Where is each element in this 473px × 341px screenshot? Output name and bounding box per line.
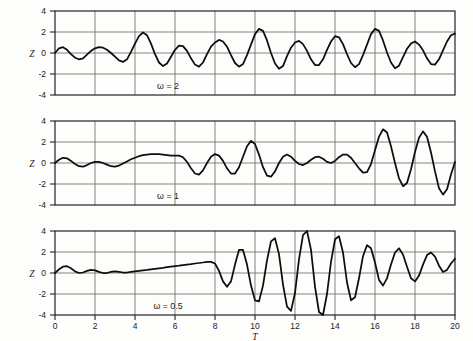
panel-2-ytick-2: 2 [41, 137, 46, 147]
panel-omega-2: 4 2 0 -2 -4 Z ω = 2 [29, 6, 455, 100]
panel-3-ytick-2: 2 [41, 247, 46, 257]
panel-3-gridlines [55, 231, 455, 315]
panel-1-y-axis-label: Z [29, 49, 35, 59]
panel-omega-05: 4 2 0 -2 -4 Z ω = 0.5 0 [29, 226, 460, 341]
panel-2-ytick-4: 4 [41, 116, 46, 126]
xtick-18: 18 [410, 321, 420, 331]
xtick-20: 20 [450, 321, 460, 331]
xtick-8: 8 [213, 321, 218, 331]
panel-3-ytick-0: 0 [41, 268, 46, 278]
xtick-14: 14 [330, 321, 340, 331]
xtick-2: 2 [93, 321, 98, 331]
panel-2-ytick-neg2: -2 [38, 179, 46, 189]
xtick-0: 0 [53, 321, 58, 331]
panel-3-ytick-neg2: -2 [38, 289, 46, 299]
xtick-4: 4 [133, 321, 138, 331]
panel-2-ytick-neg4: -4 [38, 200, 46, 210]
panel-2-ytick-0: 0 [41, 158, 46, 168]
three-panel-waveform-chart: 4 2 0 -2 -4 Z ω = 2 [0, 0, 473, 341]
xtick-10: 10 [250, 321, 260, 331]
panel-2-y-axis-label: Z [29, 159, 35, 169]
panel-1-ytick-4: 4 [41, 6, 46, 16]
panel-1-ytick-neg4: -4 [38, 90, 46, 100]
panel-2-annotation: ω = 1 [157, 191, 179, 201]
panel-omega-1: 4 2 0 -2 -4 Z ω = 1 [29, 116, 455, 210]
panel-3-y-axis-label: Z [29, 269, 35, 279]
xtick-16: 16 [370, 321, 380, 331]
panel-3-annotation: ω = 0.5 [153, 301, 182, 311]
panel-1-gridlines [55, 11, 455, 95]
x-axis-ticks [55, 315, 455, 320]
xtick-12: 12 [290, 321, 300, 331]
panel-1-ytick-0: 0 [41, 48, 46, 58]
panel-1-ytick-neg2: -2 [38, 69, 46, 79]
xtick-6: 6 [173, 321, 178, 331]
figure-container: 4 2 0 -2 -4 Z ω = 2 [0, 0, 473, 341]
panel-3-ytick-4: 4 [41, 226, 46, 236]
panel-1-annotation: ω = 2 [157, 81, 179, 91]
x-axis-label: T [252, 332, 258, 341]
panel-3-ytick-neg4: -4 [38, 310, 46, 320]
panel-1-ytick-2: 2 [41, 27, 46, 37]
